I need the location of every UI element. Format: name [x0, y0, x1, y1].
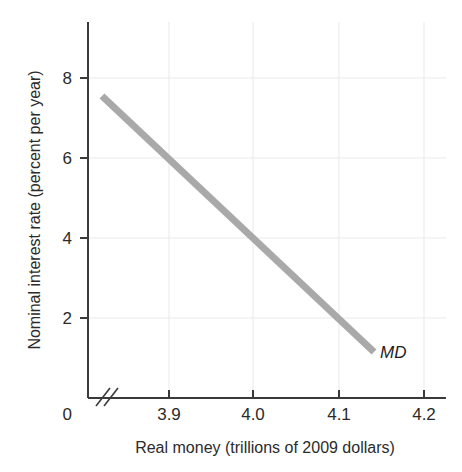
- y-tick-label-4: 4: [63, 229, 72, 248]
- y-tick-label-2: 2: [63, 309, 72, 328]
- md-curve-label: MD: [380, 343, 406, 362]
- origin-label-zero: 0: [63, 405, 72, 424]
- money-demand-chart-figure: 8 6 4 2 0 3.9 4.0 4.1 4.2 MD Real money …: [0, 0, 462, 472]
- x-tick-label-4-2: 4.2: [412, 405, 436, 424]
- chart-canvas: 8 6 4 2 0 3.9 4.0 4.1 4.2 MD Real money …: [0, 0, 462, 472]
- y-tick-label-6: 6: [63, 149, 72, 168]
- x-tick-label-3-9: 3.9: [157, 405, 181, 424]
- x-axis-title: Real money (trillions of 2009 dollars): [135, 439, 395, 456]
- x-tick-label-4-0: 4.0: [241, 405, 265, 424]
- x-tick-label-4-1: 4.1: [327, 405, 351, 424]
- y-axis-title: Nominal interest rate (percent per year): [26, 70, 43, 349]
- y-tick-label-8: 8: [63, 69, 72, 88]
